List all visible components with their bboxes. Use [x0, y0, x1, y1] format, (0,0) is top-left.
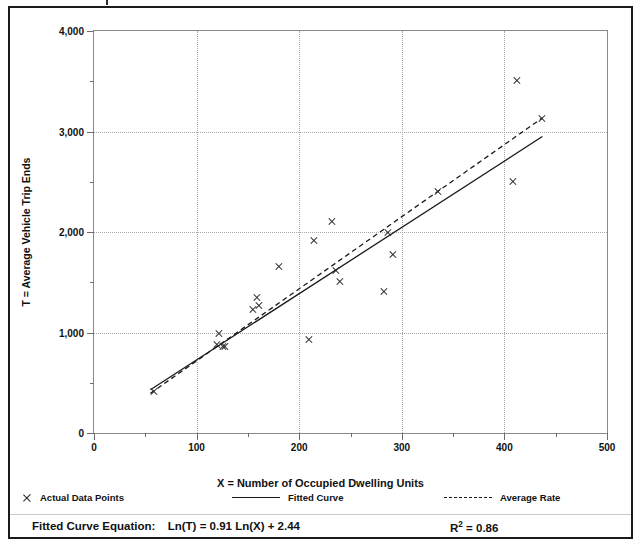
chart-footer: Fitted Curve Equation: Ln(T) = 0.91 Ln(X… [10, 518, 631, 540]
x-axis-minor-tick [351, 433, 352, 437]
trend-lines-layer [94, 31, 607, 433]
legend-item-fitted-curve: Fitted Curve [232, 492, 343, 503]
data-point-marker [215, 329, 224, 338]
x-axis-tick [94, 433, 95, 440]
data-point-marker [332, 266, 341, 275]
legend-label: Fitted Curve [288, 492, 343, 503]
chart-page: T = Average Vehicle Trip Ends 0100200300… [0, 0, 641, 547]
chart-legend: Actual Data Points Fitted Curve Average … [10, 492, 631, 512]
x-axis-tick [197, 433, 198, 440]
r-squared-value: R2 = 0.86 [450, 520, 498, 534]
equation-label: Fitted Curve Equation: [32, 520, 155, 532]
dashed-line-icon [444, 497, 492, 498]
legend-item-actual-data-points: Actual Data Points [22, 492, 124, 503]
data-point-marker [255, 301, 264, 310]
x-axis-tick [299, 433, 300, 440]
x-axis-minor-tick [453, 433, 454, 437]
data-point-marker [221, 342, 230, 351]
y-axis-tick [87, 433, 94, 434]
x-axis-tick [607, 433, 608, 440]
y-axis-tick [87, 333, 94, 334]
x-axis-tick-label: 400 [496, 442, 513, 453]
y-axis-tick-label: 1,000 [59, 327, 84, 338]
y-axis-tick [87, 132, 94, 133]
x-axis-minor-tick [248, 433, 249, 437]
data-point-marker [380, 287, 389, 296]
y-axis-tick-label: 0 [78, 428, 84, 439]
legend-label: Average Rate [500, 492, 560, 503]
fitted-curve-equation: Fitted Curve Equation: Ln(T) = 0.91 Ln(X… [32, 520, 300, 532]
x-axis-tick-label: 0 [91, 442, 97, 453]
data-point-marker [309, 236, 318, 245]
data-point-marker [384, 228, 393, 237]
x-marker-icon [22, 493, 32, 503]
y-axis-tick-label: 2,000 [59, 227, 84, 238]
scatter-chart: T = Average Vehicle Trip Ends 0100200300… [0, 0, 641, 547]
data-point-marker [512, 76, 521, 85]
data-point-marker [328, 217, 337, 226]
data-point-marker [388, 250, 397, 259]
data-point-marker [538, 114, 547, 123]
y-axis-tick [87, 232, 94, 233]
y-axis-tick-label: 4,000 [59, 26, 84, 37]
average-rate-line [150, 118, 542, 393]
footer-divider [10, 514, 631, 515]
data-point-marker [149, 387, 158, 396]
y-axis-tick-label: 3,000 [59, 126, 84, 137]
data-point-marker [433, 187, 442, 196]
solid-line-icon [232, 497, 280, 498]
equation-formula: Ln(T) = 0.91 Ln(X) + 2.44 [168, 520, 300, 532]
x-axis-tick-label: 100 [188, 442, 205, 453]
data-point-marker [336, 277, 345, 286]
x-axis-tick-label: 200 [291, 442, 308, 453]
r2-number: = 0.86 [463, 522, 499, 534]
y-axis-tick [87, 31, 94, 32]
data-point-marker [508, 177, 517, 186]
legend-item-average-rate: Average Rate [444, 492, 560, 503]
x-axis-tick-label: 300 [393, 442, 410, 453]
x-axis-tick [402, 433, 403, 440]
plot-area: 010020030040050001,0002,0003,0004,000 [93, 30, 608, 434]
data-point-marker [274, 262, 283, 271]
x-axis-title: X = Number of Occupied Dwelling Units [0, 477, 641, 489]
x-axis-tick-label: 500 [599, 442, 616, 453]
data-point-marker [305, 335, 314, 344]
x-axis-minor-tick [145, 433, 146, 437]
x-axis-minor-tick [556, 433, 557, 437]
legend-label: Actual Data Points [40, 492, 124, 503]
x-axis-tick [504, 433, 505, 440]
y-axis-title: T = Average Vehicle Trip Ends [20, 158, 32, 307]
